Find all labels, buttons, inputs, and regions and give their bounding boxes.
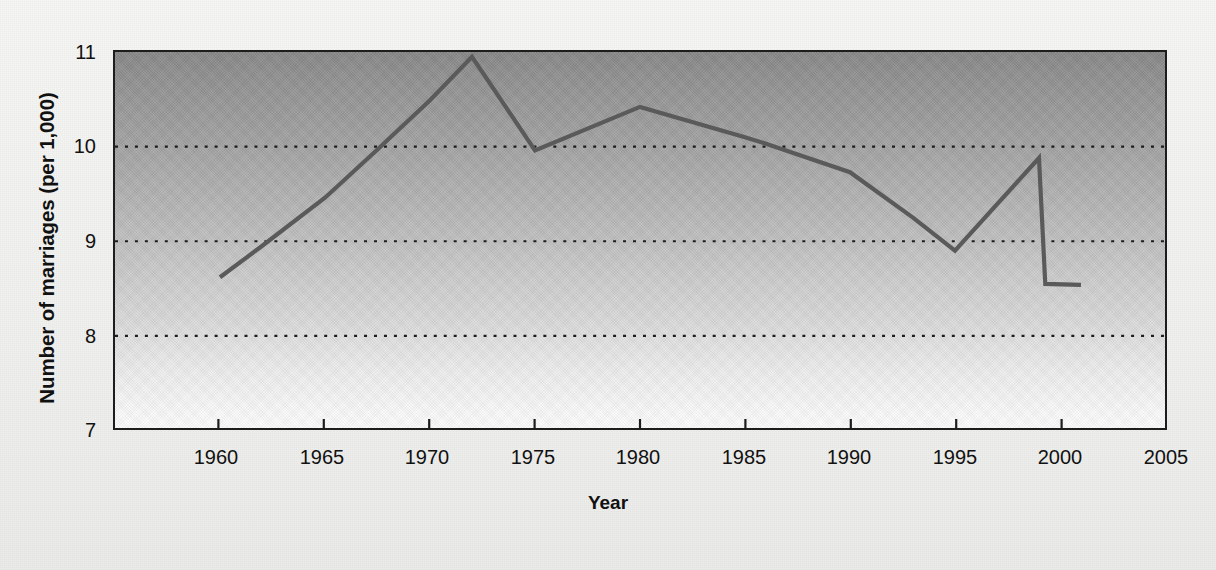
plot-area [113, 50, 1167, 430]
gridlines [115, 147, 1165, 336]
x-tick-label-1990: 1990 [804, 446, 894, 469]
x-tick-label-1985: 1985 [699, 446, 789, 469]
plot-svg [115, 52, 1165, 430]
series-line-0 [220, 57, 1081, 285]
data-series-group [220, 57, 1081, 285]
y-tick-label-7: 7 [36, 419, 96, 442]
y-tick-label-9: 9 [36, 230, 96, 253]
chart-figure: Number of marriages (per 1,000) 7 8 9 10… [0, 0, 1216, 570]
x-tick-label-2005: 2005 [1121, 446, 1211, 469]
x-tick-label-1965: 1965 [277, 446, 367, 469]
x-tick-label-1970: 1970 [382, 446, 472, 469]
x-tick-label-1980: 1980 [593, 446, 683, 469]
x-tick-label-1975: 1975 [488, 446, 578, 469]
y-tick-label-8: 8 [36, 325, 96, 348]
x-tick-label-1995: 1995 [910, 446, 1000, 469]
x-tick-label-1960: 1960 [171, 446, 261, 469]
y-tick-label-10: 10 [36, 135, 96, 158]
x-axis-title: Year [0, 492, 1216, 514]
y-tick-label-11: 11 [36, 41, 96, 64]
x-tick-label-2000: 2000 [1015, 446, 1105, 469]
